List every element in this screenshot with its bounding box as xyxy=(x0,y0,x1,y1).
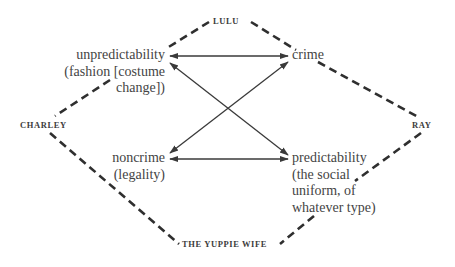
term-unpredictability-line-2: (fashion [costume xyxy=(64,64,165,81)
term-noncrime-line-2: (legality) xyxy=(112,167,165,184)
dash-yuppie-wife-predictability xyxy=(280,216,314,244)
arrow-noncrime-crime xyxy=(170,62,288,153)
character-ray: RAY xyxy=(412,120,431,130)
dash-lulu-crime xyxy=(251,22,296,50)
term-unpredictability-line-3: change]) xyxy=(64,80,165,97)
term-noncrime-line-1: noncrime xyxy=(112,150,165,167)
term-predictability: predictability (the social uniform, of w… xyxy=(292,150,376,216)
dash-ray-crime xyxy=(318,62,418,117)
character-lulu: LULU xyxy=(213,16,239,26)
term-unpredictability-line-1: unpredictability xyxy=(64,47,165,64)
character-yuppie-wife: THE YUPPIE WIFE xyxy=(182,239,267,249)
dash-lulu-unpredictability xyxy=(167,22,209,48)
character-charley: CHARLEY xyxy=(20,120,67,130)
term-crime: crime xyxy=(292,47,324,64)
relation-arrows xyxy=(170,56,288,159)
term-predictability-line-2: (the social xyxy=(292,167,376,184)
arrow-unpredictability-predictability xyxy=(170,63,288,155)
term-predictability-line-1: predictability xyxy=(292,150,376,167)
term-predictability-line-3: uniform, of xyxy=(292,183,376,200)
term-noncrime: noncrime (legality) xyxy=(112,150,165,183)
term-predictability-line-4: whatever type) xyxy=(292,200,376,217)
diagram-lines xyxy=(0,0,455,267)
term-crime-line-1: crime xyxy=(292,47,324,64)
term-unpredictability: unpredictability (fashion [costume chang… xyxy=(64,47,165,97)
